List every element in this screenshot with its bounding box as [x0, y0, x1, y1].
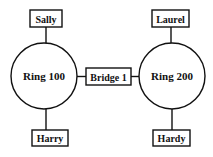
station-hardy-label: Hardy [158, 133, 186, 144]
station-hardy: Hardy [153, 130, 190, 146]
ring-200-label: Ring 200 [151, 70, 193, 82]
station-laurel-label: Laurel [156, 14, 185, 25]
bridge-1-label: Bridge 1 [90, 72, 126, 83]
ring-100: Ring 100 [11, 43, 77, 109]
station-sally-label: Sally [35, 14, 56, 25]
network-diagram: Ring 100 Ring 200 Bridge 1 Sally Laurel … [0, 0, 213, 157]
station-harry: Harry [32, 130, 68, 146]
station-laurel: Laurel [152, 10, 189, 27]
station-sally: Sally [30, 10, 62, 27]
ring-100-label: Ring 100 [23, 70, 65, 82]
ring-200: Ring 200 [139, 43, 205, 109]
bridge-1: Bridge 1 [86, 68, 131, 85]
station-harry-label: Harry [37, 133, 64, 144]
